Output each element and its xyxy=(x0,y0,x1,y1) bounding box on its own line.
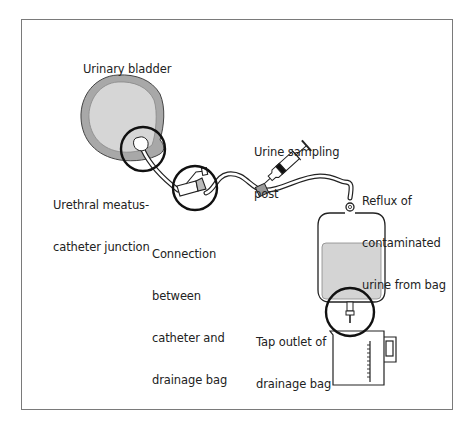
tap-outlet xyxy=(346,302,354,323)
label-line: Reflux of xyxy=(362,194,446,208)
measuring-jug xyxy=(330,331,396,385)
label-line: urine from bag xyxy=(362,278,446,292)
label-line: between xyxy=(152,289,227,303)
urethral-meatus xyxy=(134,137,149,151)
label-line: drainage bag xyxy=(152,373,227,387)
label-line: Tap outlet of xyxy=(256,335,331,349)
label-urinary-bladder: Urinary bladder xyxy=(83,34,171,90)
label-connection: Connection between catheter and drainage… xyxy=(152,219,227,401)
label-line: Urinary bladder xyxy=(83,62,171,76)
label-line: contaminated xyxy=(362,236,446,250)
label-line: Urethral meatus- xyxy=(53,198,150,212)
label-line: drainage bag xyxy=(256,377,331,391)
label-urine-sampling-post: Urine sampling post xyxy=(254,117,339,215)
label-line: Urine sampling xyxy=(254,145,339,159)
label-line: Connection xyxy=(152,247,227,261)
label-line: catheter and xyxy=(152,331,227,345)
label-meatus-catheter-junction: Urethral meatus- catheter junction xyxy=(53,170,150,268)
label-tap-outlet: Tap outlet of drainage bag xyxy=(256,307,331,405)
label-reflux: Reflux of contaminated urine from bag xyxy=(362,166,446,306)
label-line: catheter junction xyxy=(53,240,150,254)
label-line: post xyxy=(254,187,339,201)
